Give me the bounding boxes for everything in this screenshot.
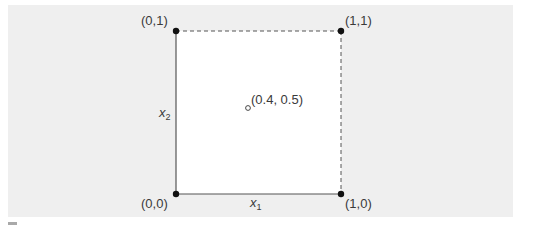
interior-point-open-circle (246, 106, 251, 111)
vertex-label-1-1: (1,1) (345, 13, 372, 28)
square-region (176, 31, 341, 194)
vertex-label-0-1: (0,1) (141, 13, 168, 28)
axis-label-x2: x2 (158, 105, 171, 122)
vertex-1-0-dot (338, 191, 344, 197)
vertex-0-1-dot (173, 28, 179, 34)
interior-point-label: (0.4, 0.5) (251, 92, 303, 107)
vertex-1-1-dot (338, 28, 344, 34)
axis-label-x1-subscript: 1 (257, 202, 262, 212)
axis-label-x2-subscript: 2 (166, 112, 171, 122)
vertex-label-1-0: (1,0) (345, 196, 372, 211)
axis-label-x1: x1 (249, 195, 262, 212)
vertex-0-0-dot (173, 191, 179, 197)
vertex-label-0-0: (0,0) (141, 196, 168, 211)
caption-fragment (8, 222, 17, 225)
unit-square-diagram: (0,1) (1,1) (0,0) (1,0) (0.4, 0.5) x2 x1 (0, 0, 533, 225)
